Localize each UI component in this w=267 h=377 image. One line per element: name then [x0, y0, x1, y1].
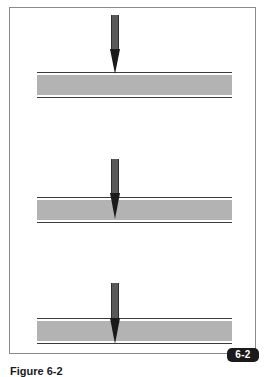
- probe-tip: [110, 49, 120, 74]
- material-band-fill: [37, 321, 232, 341]
- figure-frame: [9, 7, 256, 354]
- material-band: [37, 197, 232, 223]
- material-band: [37, 318, 232, 344]
- probe-tip: [110, 193, 120, 219]
- material-band: [37, 72, 232, 98]
- probe-shaft: [111, 159, 119, 193]
- figure-number-badge: 6-2: [227, 348, 259, 362]
- material-band-fill: [37, 200, 232, 220]
- probe-tip: [110, 318, 120, 344]
- material-band-fill: [37, 75, 232, 95]
- probe-shaft: [111, 283, 119, 318]
- probe-shaft: [111, 15, 119, 49]
- figure-caption: Figure 6-2: [10, 365, 63, 377]
